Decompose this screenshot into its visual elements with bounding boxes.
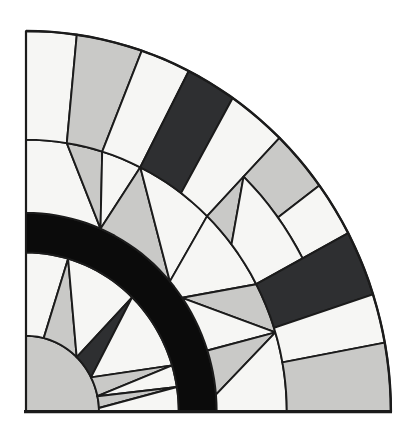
scanned-figure-page — [0, 0, 411, 438]
quarter-wheel-quilt-pattern — [0, 0, 411, 438]
